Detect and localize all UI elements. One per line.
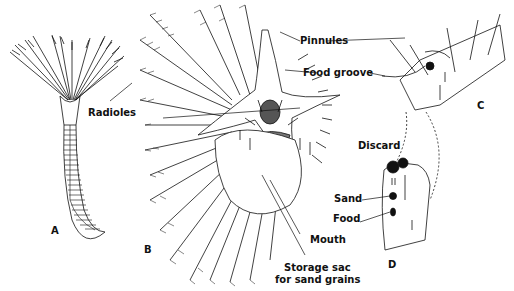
panel-letter-c: C [477, 100, 484, 111]
panel-letter-a: A [51, 225, 59, 236]
label-sand: Sand [334, 193, 362, 204]
label-radioles: Radioles [88, 107, 136, 118]
label-food-groove: Food groove [303, 67, 373, 78]
fan-worm-feeding-diagram: Radioles Pinnules Food groove Mouth Stor… [0, 0, 514, 291]
label-discard: Discard [358, 140, 400, 151]
label-food: Food [333, 213, 360, 224]
panel-letter-d: D [388, 259, 396, 270]
diagram-drawing [0, 0, 514, 291]
label-storage-line1: Storage sac [284, 262, 351, 273]
label-pinnules: Pinnules [300, 35, 348, 46]
label-mouth: Mouth [310, 234, 346, 245]
radiole-section-drawing [382, 14, 505, 110]
sorting-base-drawing [382, 158, 430, 250]
worm-whole-drawing [10, 35, 124, 239]
panel-letter-b: B [144, 244, 152, 255]
label-storage-line2: for sand grains [275, 274, 360, 285]
